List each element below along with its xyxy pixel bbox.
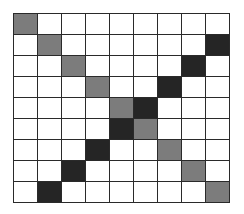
grid-cell-empty	[110, 140, 134, 161]
grid-cell-empty	[110, 35, 134, 56]
grid-cell-dark	[86, 140, 110, 161]
grid-cell-empty	[86, 14, 110, 35]
grid-cell-empty	[14, 98, 38, 119]
grid-cell-empty	[38, 140, 62, 161]
grid-cell-dark	[182, 56, 206, 77]
grid-cell-empty	[86, 182, 110, 203]
grid-cell-gray	[158, 140, 182, 161]
grid-cell-empty	[14, 119, 38, 140]
grid-cell-empty	[38, 119, 62, 140]
grid-cell-empty	[38, 14, 62, 35]
grid-cell-dark	[206, 35, 230, 56]
grid-cell-dark	[62, 161, 86, 182]
grid-cell-empty	[158, 161, 182, 182]
grid-cell-empty	[134, 77, 158, 98]
grid-cell-empty	[110, 77, 134, 98]
grid-cell-empty	[62, 182, 86, 203]
grid-cell-empty	[38, 161, 62, 182]
grid-cell-gray	[182, 161, 206, 182]
grid-cell-empty	[38, 98, 62, 119]
grid-cell-empty	[158, 14, 182, 35]
grid-cell-empty	[206, 77, 230, 98]
grid-cell-empty	[206, 14, 230, 35]
grid-cell-gray	[62, 56, 86, 77]
grid-cell-empty	[158, 35, 182, 56]
grid-cell-empty	[182, 140, 206, 161]
grid-cell-gray	[86, 77, 110, 98]
grid-cell-empty	[62, 77, 86, 98]
grid-cell-gray	[14, 14, 38, 35]
grid-cell-empty	[158, 56, 182, 77]
grid-cell-empty	[62, 140, 86, 161]
grid-cell-gray	[38, 35, 62, 56]
grid-cell-gray	[110, 98, 134, 119]
grid-cell-empty	[134, 140, 158, 161]
grid-cell-empty	[206, 119, 230, 140]
grid-cell-empty	[14, 56, 38, 77]
grid-cell-empty	[86, 161, 110, 182]
grid-cell-empty	[62, 119, 86, 140]
grid-cell-empty	[182, 182, 206, 203]
grid-cell-empty	[206, 161, 230, 182]
grid-cell-empty	[134, 161, 158, 182]
grid-cell-empty	[14, 140, 38, 161]
grid-cell-empty	[14, 182, 38, 203]
grid-cell-empty	[14, 77, 38, 98]
grid-cell-dark	[110, 119, 134, 140]
grid-cell-empty	[134, 35, 158, 56]
grid-cell-empty	[158, 119, 182, 140]
grid-cell-empty	[110, 161, 134, 182]
grid-cell-empty	[86, 35, 110, 56]
grid-cell-empty	[38, 77, 62, 98]
cell-grid	[13, 13, 230, 203]
grid-cell-empty	[14, 35, 38, 56]
grid-cell-gray	[206, 182, 230, 203]
grid-cell-dark	[158, 77, 182, 98]
grid-cell-empty	[86, 98, 110, 119]
grid-cell-empty	[182, 35, 206, 56]
grid-cell-empty	[206, 98, 230, 119]
grid-cell-empty	[182, 98, 206, 119]
grid-cell-empty	[134, 14, 158, 35]
grid-cell-empty	[134, 56, 158, 77]
grid-cell-empty	[62, 98, 86, 119]
grid-cell-empty	[14, 161, 38, 182]
grid-cell-empty	[158, 98, 182, 119]
grid-cell-empty	[182, 77, 206, 98]
grid-cell-gray	[134, 119, 158, 140]
grid-cell-empty	[158, 182, 182, 203]
grid-cell-empty	[38, 56, 62, 77]
grid-cell-empty	[206, 56, 230, 77]
grid-cell-dark	[134, 98, 158, 119]
grid-cell-empty	[206, 140, 230, 161]
grid-cell-empty	[62, 35, 86, 56]
grid-cell-empty	[182, 119, 206, 140]
grid-cell-empty	[182, 14, 206, 35]
grid-cell-empty	[134, 182, 158, 203]
grid-cell-empty	[110, 182, 134, 203]
grid-cell-dark	[38, 182, 62, 203]
grid-cell-empty	[110, 56, 134, 77]
grid-cell-empty	[62, 14, 86, 35]
grid-cell-empty	[86, 56, 110, 77]
grid-cell-empty	[110, 14, 134, 35]
grid-cell-empty	[86, 119, 110, 140]
